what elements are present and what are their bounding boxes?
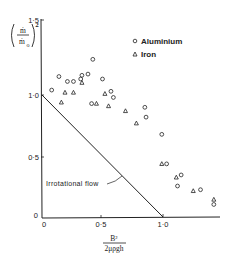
irrotational-flow-line	[42, 95, 163, 217]
aluminium-point-icon	[91, 57, 95, 61]
iron-point-icon	[59, 100, 63, 104]
svg-text:2: 2	[35, 21, 39, 29]
x-ticks: 0 0·5 1·0	[42, 214, 169, 229]
aluminium-point-icon	[86, 72, 90, 76]
iron-point-icon	[107, 104, 111, 108]
aluminium-point-icon	[66, 80, 70, 84]
iron-point-icon	[212, 197, 216, 201]
iron-point-icon	[71, 90, 75, 94]
x-axis-label: B² 2μρgh	[103, 234, 126, 253]
y-tick-0-5: 0·5	[28, 153, 39, 162]
aluminium-point-icon	[143, 105, 147, 109]
aluminium-point-icon	[72, 80, 76, 84]
legend: Aluminium Iron	[133, 37, 182, 59]
svg-text:B²: B²	[110, 234, 118, 243]
aluminium-point-icon	[57, 75, 61, 79]
legend-triangle-icon	[133, 52, 137, 56]
y-axis-label: ṁ ṁ o 2	[12, 21, 40, 48]
aluminium-point-icon	[50, 88, 54, 92]
y-tick-1-0: 1·0	[28, 91, 39, 100]
iron-point-icon	[174, 175, 178, 179]
scatter-chart: 1·5 1·0 0·5 0 0 0·5 1·0 ṁ ṁ o 2 B² 2μρgh…	[0, 0, 229, 259]
svg-text:ṁ: ṁ	[19, 37, 25, 46]
x-tick-1-0: 1·0	[158, 220, 169, 229]
iron-point-icon	[63, 90, 67, 94]
iron-point-icon	[160, 162, 164, 166]
aluminium-point-icon	[90, 102, 94, 106]
aluminium-point-icon	[176, 184, 180, 188]
iron-point-icon	[94, 101, 98, 105]
aluminium-point-icon	[165, 162, 169, 166]
legend-label-aluminium: Aluminium	[141, 37, 182, 46]
legend-label-iron: Iron	[141, 50, 156, 59]
svg-text:o: o	[27, 42, 30, 48]
annotation-leader-line	[107, 176, 122, 184]
iron-point-icon	[191, 189, 195, 193]
svg-text:2μρgh: 2μρgh	[104, 244, 123, 253]
y-axis-line	[41, 19, 42, 218]
aluminium-point-icon	[144, 115, 148, 119]
x-axis-line	[42, 217, 220, 218]
x-tick-0: 0	[42, 220, 46, 229]
iron-point-icon	[123, 109, 127, 113]
iron-point-icon	[103, 92, 107, 96]
aluminium-point-icon	[212, 203, 216, 207]
legend-circle-icon	[133, 39, 137, 43]
aluminium-point-icon	[80, 73, 84, 77]
x-tick-0-5: 0·5	[96, 220, 107, 229]
svg-text:ṁ: ṁ	[20, 26, 26, 35]
irrotational-flow-label: Irrotational flow	[46, 180, 99, 187]
y-tick-0: 0	[34, 211, 38, 220]
iron-point-icon	[134, 121, 138, 125]
aluminium-point-icon	[111, 96, 115, 100]
aluminium-point-icon	[160, 132, 164, 136]
aluminium-point-icon	[109, 89, 113, 93]
aluminium-point-icon	[199, 188, 203, 192]
aluminium-point-icon	[101, 77, 105, 81]
aluminium-point-icon	[179, 173, 183, 177]
